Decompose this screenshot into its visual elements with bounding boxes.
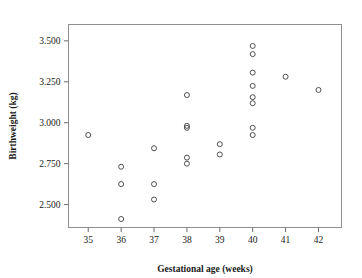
- x-axis-tick-labels: 3536373839404142: [83, 235, 323, 245]
- x-tick-label: 35: [83, 235, 93, 245]
- y-axis-title: Birthweight (kg): [8, 92, 19, 159]
- data-point: [250, 125, 255, 130]
- scatter-plot-figure: 2.5002.7503.0003.2503.500 35363738394041…: [0, 0, 362, 278]
- data-point: [250, 83, 255, 88]
- data-point: [86, 133, 91, 138]
- data-point: [250, 101, 255, 106]
- data-point: [119, 182, 124, 187]
- y-tick-label: 2.750: [39, 159, 61, 169]
- x-tick-label: 40: [248, 235, 258, 245]
- data-point: [250, 95, 255, 100]
- data-point: [217, 142, 222, 147]
- y-tick-label: 3.500: [39, 36, 61, 46]
- y-axis-tick-labels: 2.5002.7503.0003.2503.500: [39, 36, 61, 210]
- data-point: [119, 216, 124, 221]
- data-point: [152, 182, 157, 187]
- data-point: [316, 87, 321, 92]
- x-axis-title: Gestational age (weeks): [157, 264, 253, 275]
- data-point: [184, 155, 189, 160]
- x-tick-label: 41: [281, 235, 291, 245]
- data-point: [152, 197, 157, 202]
- x-tick-label: 42: [314, 235, 324, 245]
- data-point-layer: [86, 43, 321, 221]
- data-point: [184, 161, 189, 166]
- data-point: [250, 52, 255, 57]
- x-axis-tick-group: [88, 228, 318, 233]
- y-axis-tick-group: [64, 41, 69, 205]
- x-tick-label: 36: [116, 235, 126, 245]
- data-point: [217, 152, 222, 157]
- data-point: [250, 43, 255, 48]
- plot-frame: [69, 25, 342, 228]
- x-tick-label: 37: [149, 235, 159, 245]
- x-tick-label: 39: [215, 235, 225, 245]
- data-point: [250, 133, 255, 138]
- y-tick-label: 3.000: [39, 118, 61, 128]
- data-point: [283, 74, 288, 79]
- x-tick-label: 38: [182, 235, 192, 245]
- y-tick-label: 2.500: [39, 200, 61, 210]
- data-point: [119, 164, 124, 169]
- plot-canvas: 2.5002.7503.0003.2503.500 35363738394041…: [0, 0, 362, 278]
- data-point: [152, 146, 157, 151]
- data-point: [184, 93, 189, 98]
- data-point: [250, 70, 255, 75]
- y-tick-label: 3.250: [39, 77, 61, 87]
